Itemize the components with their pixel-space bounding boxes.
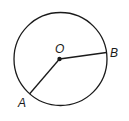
radius-ob (60, 53, 107, 60)
label-b: B (110, 46, 118, 60)
circle-diagram: O B A (0, 0, 129, 121)
radius-oa (30, 59, 60, 94)
label-a: A (17, 96, 26, 110)
label-o: O (55, 42, 64, 56)
center-point (57, 57, 61, 61)
